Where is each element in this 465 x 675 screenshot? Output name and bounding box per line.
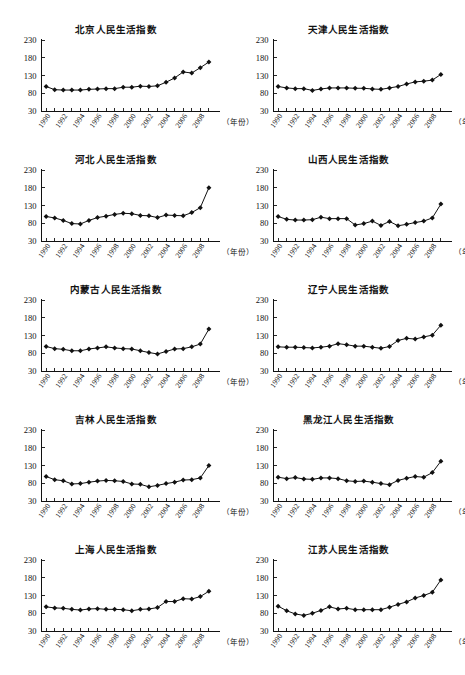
data-point-marker [86,480,91,485]
data-point-marker [44,214,49,219]
data-point-marker [61,478,66,483]
data-point-marker [387,219,392,224]
y-tick-label: 80 [260,218,269,228]
data-point-marker [378,481,383,486]
x-tick-label: 2008 [190,112,206,130]
x-tick-label: 2000 [122,632,138,650]
data-point-marker [138,84,143,89]
x-tick-label: 1998 [337,632,353,650]
data-point-marker [164,349,169,354]
data-point-marker [146,84,151,89]
data-point-marker [336,606,341,611]
data-point-marker [310,345,315,350]
data-point-marker [344,342,349,347]
data-point-marker [61,347,66,352]
data-point-marker [276,344,281,349]
x-tick-label: 2000 [122,242,138,260]
data-point-marker [112,478,117,483]
data-point-marker [198,594,203,599]
data-point-marker [318,345,323,350]
data-point-marker [138,607,143,612]
data-point-marker [206,185,211,190]
x-tick-label: 1994 [70,242,86,260]
x-tick-label: 1990 [36,632,52,650]
line-plot: 3080130180230199019921994199619982000200… [232,538,464,668]
x-tick-label: 1994 [302,632,318,650]
chart-panel: 河北人民生活指数30801301802301990199219941996199… [0,148,232,278]
data-point-marker [189,71,194,76]
data-point-marker [413,595,418,600]
chart-panel: 辽宁人民生活指数30801301802301990199219941996199… [232,278,465,408]
data-point-marker [396,478,401,483]
data-point-marker [52,605,57,610]
data-point-marker [396,602,401,607]
data-point-marker [276,475,281,480]
data-point-marker [293,475,298,480]
data-point-marker [318,475,323,480]
data-point-marker [421,593,426,598]
series-line [46,591,209,611]
y-tick-label: 230 [256,425,269,435]
x-tick-label: 1994 [302,372,318,390]
data-point-marker [104,344,109,349]
y-tick-label: 130 [256,591,269,601]
data-point-marker [172,213,177,218]
x-tick-label: 1994 [302,502,318,520]
chart-panel: 江苏人民生活指数30801301802301990199219941996199… [232,538,465,668]
data-point-marker [138,482,143,487]
data-point-marker [276,84,281,89]
data-point-marker [69,481,74,486]
data-point-marker [189,344,194,349]
y-tick-label: 230 [256,555,269,565]
x-tick-label: 2004 [388,632,404,650]
chart-grid: 北京人民生活指数30801301802301990199219941996199… [0,0,465,675]
data-point-marker [310,88,315,93]
y-tick-label: 230 [24,425,37,435]
data-point-marker [318,215,323,220]
data-point-marker [378,607,383,612]
x-tick-label: 2004 [388,502,404,520]
data-point-marker [44,344,49,349]
y-tick-label: 130 [24,461,37,471]
data-point-marker [344,478,349,483]
data-point-marker [301,345,306,350]
line-plot: 3080130180230199019921994199619982000200… [0,18,232,148]
y-tick-label: 230 [256,165,269,175]
data-point-marker [121,607,126,612]
data-point-marker [421,79,426,84]
data-point-marker [284,608,289,613]
y-tick-label: 180 [256,443,269,453]
data-point-marker [121,85,126,90]
x-tick-label: 1990 [268,502,284,520]
data-point-marker [78,221,83,226]
data-point-marker [189,597,194,602]
x-tick-label: 2008 [190,632,206,650]
x-tick-label: 2002 [371,502,387,520]
data-point-marker [404,222,409,227]
data-point-marker [112,345,117,350]
data-point-marker [370,607,375,612]
data-point-marker [95,86,100,91]
x-tick-label: 2004 [388,372,404,390]
x-tick-label: 2006 [173,502,189,520]
x-axis-caption: （年份） [454,377,465,387]
x-tick-label: 2002 [139,502,155,520]
x-tick-label: 2004 [156,632,172,650]
data-point-marker [404,476,409,481]
data-point-marker [310,477,315,482]
data-point-marker [86,218,91,223]
data-point-marker [172,599,177,604]
data-point-marker [284,345,289,350]
x-tick-label: 1996 [320,112,336,130]
x-tick-label: 2002 [371,632,387,650]
x-tick-label: 2006 [405,502,421,520]
data-point-marker [78,348,83,353]
data-point-marker [181,478,186,483]
x-tick-label: 2002 [371,112,387,130]
data-point-marker [310,611,315,616]
data-point-marker [301,218,306,223]
y-tick-label: 80 [260,88,269,98]
x-tick-label: 2008 [190,502,206,520]
x-tick-label: 2000 [122,112,138,130]
x-tick-label: 1992 [53,502,69,520]
